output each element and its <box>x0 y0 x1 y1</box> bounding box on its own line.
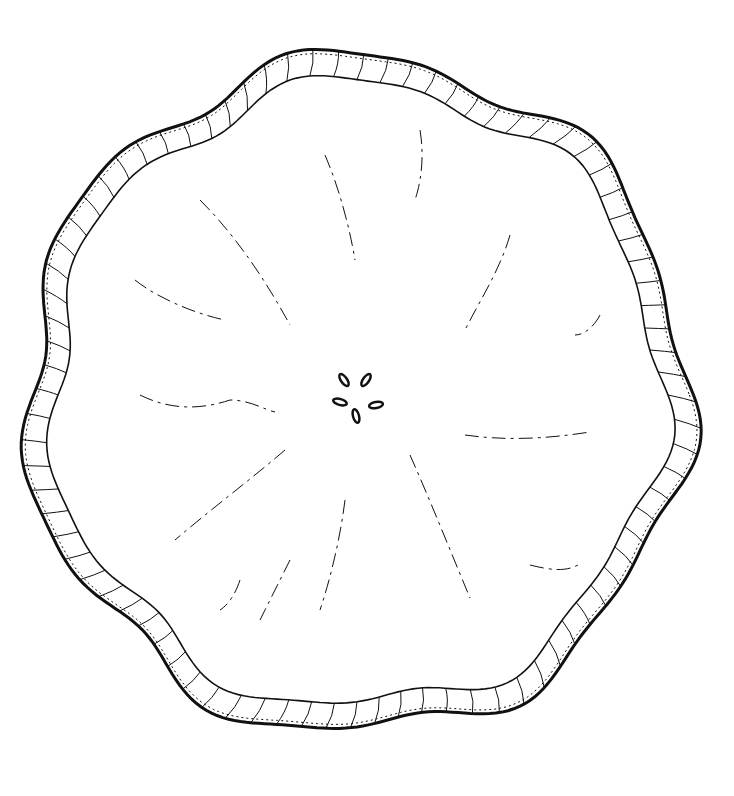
fruit-slice-drawing <box>0 0 734 796</box>
seed <box>360 373 373 388</box>
seed <box>351 408 360 423</box>
seed <box>338 373 351 388</box>
seed <box>369 401 384 409</box>
rind <box>21 50 701 729</box>
seed <box>332 397 347 406</box>
fruit-slice-illustration <box>0 0 734 796</box>
seed-cluster <box>332 373 383 424</box>
